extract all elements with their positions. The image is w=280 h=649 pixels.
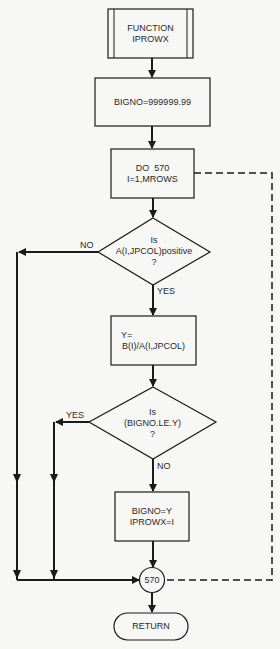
- loop-line1: DO 570: [136, 163, 170, 174]
- decision2-line3: ?: [150, 429, 155, 440]
- compute-line2: B(I)/A(I,JPCOL): [122, 341, 185, 352]
- decision1-line3: ?: [151, 257, 156, 268]
- down-arrow-left-3: [13, 570, 21, 579]
- edge-label-d1-no: NO: [80, 240, 94, 250]
- edge-label-d2-yes: YES: [66, 410, 84, 420]
- decision2-node: Is (BIGNO.LE.Y) ?: [89, 387, 216, 459]
- decision1-line1: Is: [150, 235, 157, 246]
- compute-node: Y= B(I)/A(I,JPCOL): [111, 316, 196, 365]
- init-text: BIGNO=999999.99: [114, 97, 191, 108]
- edge-label-d1-yes: YES: [157, 286, 175, 296]
- init-node: BIGNO=999999.99: [95, 78, 210, 126]
- decision2-line1: Is: [149, 407, 156, 418]
- return-text: RETURN: [132, 621, 170, 632]
- decision2-line2: (BIGNO.LE.Y): [124, 418, 181, 429]
- loop-node: DO 570 I=1,MROWS: [111, 149, 194, 198]
- down-arrow-left-2: [50, 474, 58, 483]
- loop-line2: I=1,MROWS: [127, 174, 178, 185]
- start-node: FUNCTION IPROWX: [114, 9, 187, 58]
- decision1-node: Is A(I,JPCOL)positive ?: [98, 218, 210, 285]
- down-arrow-left-1: [13, 474, 21, 483]
- compute-line1: Y=: [121, 330, 132, 341]
- down-arrow-left-4: [50, 570, 58, 579]
- connector-node: 570: [139, 567, 165, 593]
- update-node: BIGNO=Y IPROWX=I: [115, 492, 189, 541]
- connector-text: 570: [144, 575, 159, 586]
- update-line2: IPROWX=I: [130, 517, 174, 528]
- update-line1: BIGNO=Y: [132, 506, 172, 517]
- edge-label-d2-no: NO: [157, 461, 171, 471]
- start-line2: IPROWX: [132, 34, 169, 45]
- return-node: RETURN: [114, 613, 188, 640]
- start-line1: FUNCTION: [127, 23, 174, 34]
- decision1-line2: A(I,JPCOL)positive: [116, 246, 193, 257]
